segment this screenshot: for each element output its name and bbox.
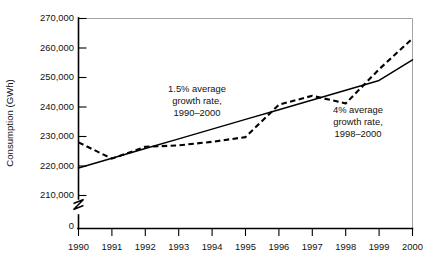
x-tick-label: 1996 <box>268 241 289 252</box>
y-axis-ticks <box>79 19 87 196</box>
x-tick-label: 2000 <box>402 241 423 252</box>
chart-container: 270,000 260,000 250,000 240,000 230,000 … <box>0 0 425 269</box>
x-tick-label: 1994 <box>202 241 223 252</box>
annotation-text-line: 1.5% average <box>168 83 226 94</box>
y-tick-label: 220,000 <box>40 160 74 171</box>
x-tick-label: 1995 <box>235 241 256 252</box>
x-tick-label: 1997 <box>302 241 323 252</box>
annotation-1-5-percent: 1.5% average growth rate, 1990–2000 <box>168 83 226 118</box>
annotation-text-line: 4% average <box>333 104 383 115</box>
y-axis <box>74 18 84 229</box>
x-tick-label: 1993 <box>168 241 189 252</box>
x-tick-label: 1991 <box>101 241 122 252</box>
y-axis-title-group: Consumption (GWh) <box>4 79 15 166</box>
annotation-text-line: 1998–2000 <box>335 128 382 139</box>
y-axis-break-icon <box>74 200 84 210</box>
annotation-text-line: 1990–2000 <box>174 107 221 118</box>
x-tick-label: 1999 <box>369 241 390 252</box>
x-tick-label: 1998 <box>335 241 356 252</box>
y-tick-label: 230,000 <box>40 130 74 141</box>
y-tick-label: 260,000 <box>40 42 74 53</box>
y-axis-tick-labels: 270,000 260,000 250,000 240,000 230,000 … <box>40 12 74 231</box>
x-axis-tick-labels: 1990 1991 1992 1993 1994 1995 1996 1997 … <box>68 241 423 252</box>
y-tick-label: 210,000 <box>40 189 74 200</box>
y-tick-label: 270,000 <box>40 12 74 23</box>
annotation-text-line: growth rate, <box>333 116 383 127</box>
y-tick-label: 240,000 <box>40 101 74 112</box>
x-tick-label: 1992 <box>135 241 156 252</box>
y-tick-label: 250,000 <box>40 71 74 82</box>
y-tick-label-zero: 0 <box>69 220 74 231</box>
series-actual-line-dashed <box>79 39 413 159</box>
annotation-4-percent: 4% average growth rate, 1998–2000 <box>333 104 383 139</box>
annotation-text-line: growth rate, <box>172 95 222 106</box>
x-tick-label: 1990 <box>68 241 89 252</box>
y-axis-title: Consumption (GWh) <box>4 79 15 166</box>
consumption-line-chart: 270,000 260,000 250,000 240,000 230,000 … <box>0 0 425 269</box>
x-axis-ticks <box>79 229 413 237</box>
